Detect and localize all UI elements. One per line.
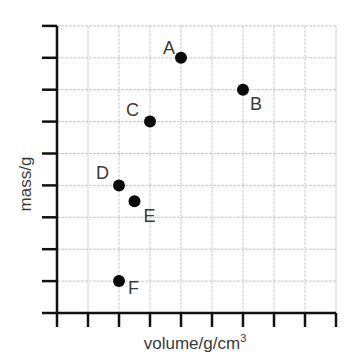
data-point-c <box>144 116 156 128</box>
data-point-d <box>113 179 125 191</box>
point-label-a: A <box>163 38 175 58</box>
point-label-d: D <box>96 163 109 183</box>
data-point-a <box>175 52 187 64</box>
point-label-e: E <box>144 206 156 226</box>
point-label-f: F <box>128 278 139 298</box>
scatter-chart: ABCDEF mass/g volume/g/cm3 <box>0 0 355 363</box>
data-point-b <box>237 84 249 96</box>
x-axis-label: volume/g/cm3 <box>144 332 247 353</box>
point-label-b: B <box>250 94 262 114</box>
axes <box>42 26 336 327</box>
data-point-e <box>129 195 141 207</box>
data-points: ABCDEF <box>96 38 262 298</box>
y-axis-label: mass/g <box>16 157 35 212</box>
data-point-f <box>113 275 125 287</box>
point-label-c: C <box>126 100 139 120</box>
